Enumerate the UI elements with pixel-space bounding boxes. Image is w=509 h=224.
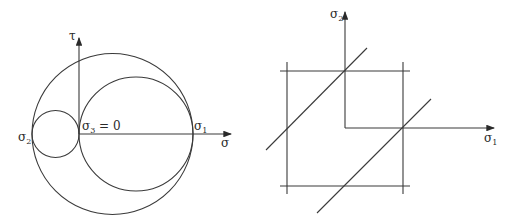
diagonal-line-lower: [317, 99, 431, 213]
sigma2-axis-label: σ2: [330, 7, 343, 23]
diagram-canvas: τ σ σ2 σ3 = 0 σ1 σ2 σ1: [0, 0, 509, 224]
yield-locus-diagram: σ2 σ1: [266, 7, 497, 213]
mohr-circle-diagram: τ σ σ2 σ3 = 0 σ1: [18, 29, 231, 215]
tau-axis-label: τ: [69, 29, 76, 43]
sigma1-axis-label: σ1: [484, 131, 497, 147]
small-circle: [32, 111, 79, 158]
sigma3-label: σ3 = 0: [82, 119, 121, 135]
sigma1-label: σ1: [194, 119, 207, 135]
sigma2-label: σ2: [18, 130, 31, 146]
sigma-axis-label: σ: [221, 136, 229, 150]
diagonal-line-upper: [266, 48, 367, 150]
